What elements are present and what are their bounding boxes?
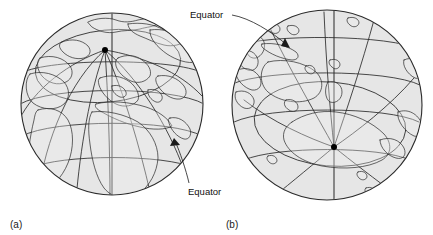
globe-panel-b: Equator (b) [190,9,424,230]
globe-a-north-pole-dot [102,47,108,53]
panel-b-caption: (b) [226,219,238,230]
globe-panel-a: Equator (a) [10,13,221,230]
globe-b-coast-new-zealand [326,82,342,103]
panel-a-caption: (a) [10,219,22,230]
globe-b-equator-label: Equator [190,9,223,20]
globe-a-equator-label: Equator [188,186,221,197]
two-globe-figure: Equator (a) [0,0,433,235]
globe-b-south-pole-dot [331,144,337,150]
